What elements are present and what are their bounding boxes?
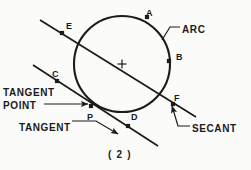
point-label-a: A <box>146 9 153 18</box>
figure-caption: ( 2 ) <box>108 150 132 160</box>
point-label-f: F <box>174 94 180 103</box>
point-label-b: B <box>176 53 183 62</box>
mark-c-icon <box>55 79 59 83</box>
mark-p-icon <box>89 104 93 108</box>
mark-e-icon <box>60 31 64 35</box>
label-secant: SECANT <box>192 124 237 134</box>
label-arc: ARC <box>182 25 205 35</box>
label-tangent-point-line1: TANGENT <box>3 88 55 98</box>
tangent-leader-line <box>72 121 118 134</box>
center-mark-icon <box>118 60 127 69</box>
point-label-c: C <box>52 70 59 79</box>
mark-b-icon <box>167 59 171 63</box>
geometry-figure-circle-tangent-secant: A B C D E F P ARC TANGENT POINT TANGENT … <box>0 0 251 170</box>
point-label-p: P <box>87 113 93 122</box>
arc-leader-line <box>162 27 180 40</box>
mark-d-icon <box>126 124 130 128</box>
label-tangent-point-line2: POINT <box>3 101 37 111</box>
secant-leader-line <box>172 106 190 126</box>
label-tangent: TANGENT <box>19 123 71 133</box>
figure-drawing-canvas <box>0 0 251 170</box>
point-label-e: E <box>66 22 72 31</box>
point-label-d: D <box>131 113 138 122</box>
